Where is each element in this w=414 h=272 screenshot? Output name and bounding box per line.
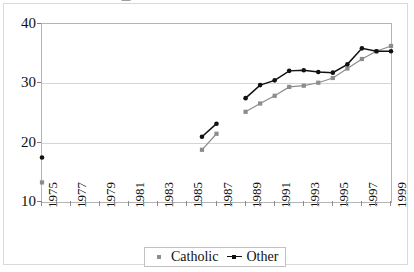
x-tick-mark-1976 (56, 201, 57, 206)
y-tick-label-10: 10 (2, 194, 36, 209)
x-tick-mark-1996 (346, 201, 347, 206)
x-tick-mark-1975 (41, 201, 42, 206)
y-tick-label-40: 40 (2, 16, 36, 31)
y-tick-label-30: 30 (2, 75, 36, 90)
x-tick-mark-1988 (230, 201, 231, 206)
data-point-catholic-1986 (200, 148, 204, 152)
x-tick-label-1983: 1983 (162, 182, 175, 208)
y-tick-label-20: 20 (2, 135, 36, 150)
data-point-other-1991 (272, 78, 277, 83)
x-tick-mark-1999 (390, 201, 391, 206)
data-series-layer (42, 24, 391, 202)
data-point-other-1998 (374, 49, 379, 54)
data-point-catholic-1990 (258, 101, 262, 105)
x-tick-mark-1997 (361, 201, 362, 206)
legend-item-catholic: Catholic (152, 249, 218, 264)
x-tick-mark-1981 (128, 201, 129, 206)
x-tick-label-1979: 1979 (104, 182, 117, 208)
data-point-other-1990 (258, 83, 263, 88)
series-line-other-1 (202, 124, 217, 137)
x-tick-mark-1980 (114, 201, 115, 206)
data-point-other-1993 (301, 68, 306, 73)
legend-item-other: Other (227, 249, 278, 264)
plot-area (41, 23, 392, 203)
x-tick-label-1985: 1985 (191, 182, 204, 208)
data-point-other-1986 (200, 134, 205, 139)
x-tick-label-1987: 1987 (221, 182, 234, 208)
y-tick-mark-40 (37, 23, 41, 24)
data-point-catholic-1975 (40, 180, 44, 184)
chart-container: — 10203040 19751977197919811983198519871… (0, 0, 414, 272)
legend-label-catholic: Catholic (171, 249, 218, 264)
data-point-other-1992 (287, 69, 292, 74)
data-point-catholic-1993 (302, 84, 306, 88)
data-point-catholic-1989 (243, 110, 247, 114)
x-tick-mark-1994 (317, 201, 318, 206)
data-point-catholic-1994 (316, 81, 320, 85)
x-tick-mark-1998 (375, 201, 376, 206)
data-point-other-1989 (243, 96, 248, 101)
x-tick-mark-1989 (245, 201, 246, 206)
data-point-other-1975 (40, 155, 45, 160)
y-tick-mark-20 (37, 142, 41, 143)
series-line-catholic-2 (246, 46, 391, 112)
x-tick-mark-1983 (157, 201, 158, 206)
legend-marker-line-dot-icon (227, 252, 242, 262)
x-tick-mark-1995 (332, 201, 333, 206)
x-tick-label-1977: 1977 (75, 182, 88, 208)
x-tick-label-1997: 1997 (366, 182, 379, 208)
x-tick-mark-1993 (303, 201, 304, 206)
x-tick-label-1991: 1991 (279, 182, 292, 208)
x-tick-mark-1984 (172, 201, 173, 206)
data-point-other-1995 (331, 70, 336, 75)
data-point-catholic-1987 (214, 132, 218, 136)
x-tick-label-1993: 1993 (308, 182, 321, 208)
data-point-catholic-1999 (389, 44, 393, 48)
data-point-catholic-1995 (331, 76, 335, 80)
data-point-other-1987 (214, 121, 219, 126)
legend-marker-square-icon (152, 252, 167, 262)
x-tick-label-1989: 1989 (250, 182, 263, 208)
x-tick-mark-1990 (259, 201, 260, 206)
x-tick-label-1995: 1995 (337, 182, 350, 208)
x-tick-mark-1977 (70, 201, 71, 206)
x-tick-mark-1985 (186, 201, 187, 206)
data-point-catholic-1997 (360, 57, 364, 61)
data-point-other-1996 (345, 62, 350, 67)
x-tick-mark-1982 (143, 201, 144, 206)
x-tick-mark-1987 (216, 201, 217, 206)
data-point-other-1997 (360, 46, 365, 51)
x-tick-label-1999: 1999 (395, 182, 408, 208)
data-point-catholic-1992 (287, 85, 291, 89)
x-tick-mark-1991 (274, 201, 275, 206)
data-point-catholic-1996 (345, 66, 349, 70)
chart-legend: Catholic Other (144, 247, 286, 267)
x-tick-label-1981: 1981 (133, 182, 146, 208)
y-tick-mark-30 (37, 82, 41, 83)
x-tick-mark-1986 (201, 201, 202, 206)
x-tick-mark-1979 (99, 201, 100, 206)
x-tick-mark-1978 (85, 201, 86, 206)
data-point-other-1994 (316, 70, 321, 75)
x-tick-label-1975: 1975 (46, 182, 59, 208)
data-point-catholic-1991 (273, 94, 277, 98)
data-point-other-1999 (389, 49, 394, 54)
legend-label-other: Other (246, 249, 278, 264)
x-tick-mark-1992 (288, 201, 289, 206)
